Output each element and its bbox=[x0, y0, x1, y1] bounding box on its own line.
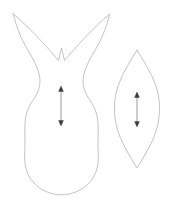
pattern-canvas bbox=[0, 0, 171, 202]
pattern-drawing-svg bbox=[0, 0, 171, 202]
